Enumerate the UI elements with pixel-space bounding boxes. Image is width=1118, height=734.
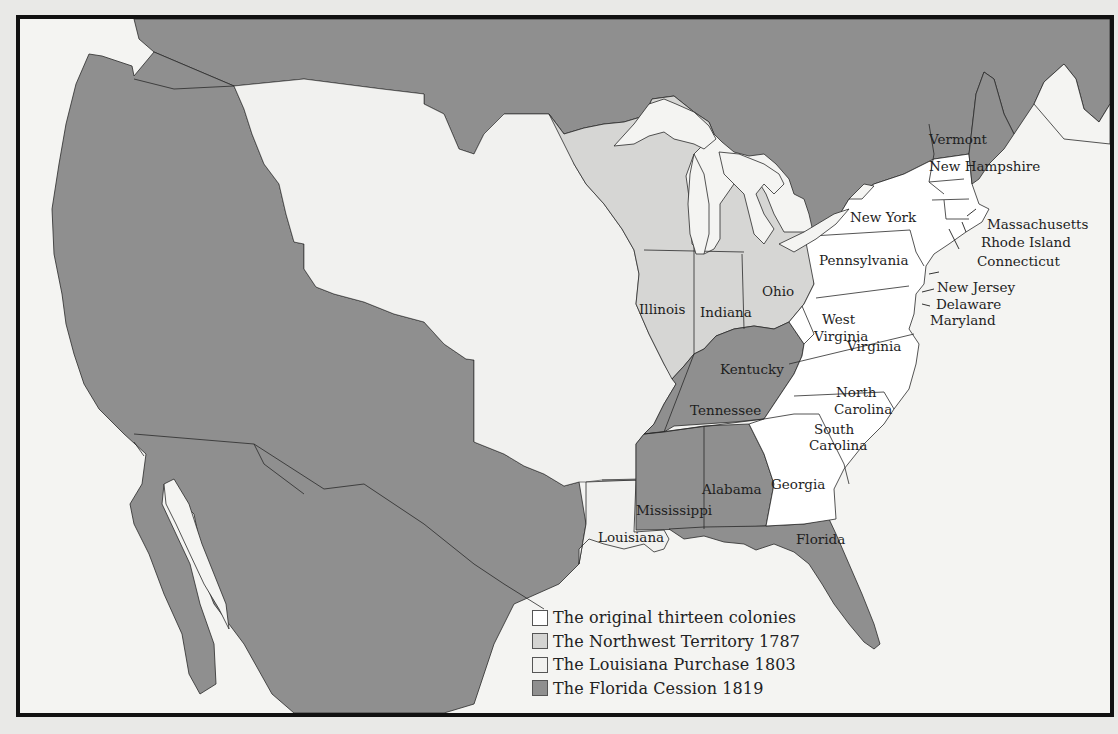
label-florida: Florida	[796, 531, 845, 547]
map-frame: Vermont New Hampshire New York Massachus…	[16, 15, 1114, 717]
label-massachusetts: Massachusetts	[987, 216, 1088, 232]
map-legend: The original thirteen colonies The North…	[532, 606, 800, 700]
label-pennsylvania: Pennsylvania	[819, 252, 908, 268]
label-north-carolina-2: Carolina	[834, 401, 892, 417]
legend-item-florida-cession: The Florida Cession 1819	[532, 677, 800, 701]
label-south-carolina-1: South	[814, 421, 854, 437]
label-vermont: Vermont	[928, 131, 988, 147]
label-georgia: Georgia	[771, 476, 825, 492]
label-tennessee: Tennessee	[690, 402, 761, 418]
legend-swatch-dark-gray	[532, 680, 548, 696]
legend-item-original-colonies: The original thirteen colonies	[532, 606, 800, 630]
label-maryland: Maryland	[930, 312, 996, 328]
legend-label: The Florida Cession 1819	[553, 679, 763, 698]
legend-swatch-off-white	[532, 657, 548, 673]
legend-swatch-white	[532, 610, 548, 626]
label-mississippi: Mississippi	[636, 502, 713, 518]
legend-item-northwest-territory: The Northwest Territory 1787	[532, 630, 800, 654]
label-rhode-island: Rhode Island	[981, 234, 1071, 250]
label-louisiana: Louisiana	[598, 529, 664, 545]
legend-label: The Louisiana Purchase 1803	[553, 655, 796, 674]
label-illinois: Illinois	[639, 301, 685, 317]
page-top-margin	[0, 0, 1118, 15]
label-alabama: Alabama	[701, 481, 762, 497]
label-ohio: Ohio	[762, 283, 794, 299]
label-kentucky: Kentucky	[720, 361, 784, 377]
label-north-carolina-1: North	[836, 384, 877, 400]
legend-label: The Northwest Territory 1787	[553, 632, 800, 651]
legend-swatch-light-gray	[532, 633, 548, 649]
label-connecticut: Connecticut	[977, 253, 1060, 269]
label-virginia: Virginia	[846, 338, 901, 354]
legend-item-louisiana-purchase: The Louisiana Purchase 1803	[532, 653, 800, 677]
label-delaware: Delaware	[936, 296, 1001, 312]
label-west-virginia-1: West	[822, 311, 856, 327]
legend-label: The original thirteen colonies	[553, 608, 796, 627]
label-new-jersey: New Jersey	[937, 279, 1015, 295]
label-new-york: New York	[850, 209, 917, 225]
label-south-carolina-2: Carolina	[809, 437, 867, 453]
label-indiana: Indiana	[700, 304, 752, 320]
label-new-hampshire: New Hampshire	[929, 158, 1040, 174]
